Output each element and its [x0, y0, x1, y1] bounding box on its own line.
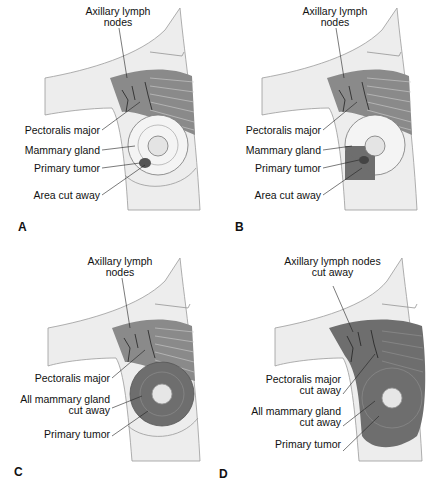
- label-pectoralis-major: Pectoralis major: [227, 125, 321, 136]
- panel-letter: D: [219, 467, 228, 481]
- panel-letter: A: [18, 220, 27, 234]
- label-pectoralis-major: Pectoralis major: [10, 373, 110, 384]
- label-pectoralis-major-cut-away: Pectoralis majorcut away: [237, 374, 341, 396]
- label-area-cut-away: Area cut away: [10, 190, 100, 201]
- label-primary-tumor: Primary tumor: [10, 429, 110, 440]
- panel-letter: C: [14, 467, 23, 478]
- label-pectoralis-major: Pectoralis major: [10, 125, 100, 136]
- label-primary-tumor: Primary tumor: [10, 163, 100, 174]
- panel-b: Axillary lymphnodes Pectoralis major Mam…: [217, 0, 434, 246]
- breast-anatomy-illustration: [217, 0, 434, 246]
- label-axillary-lymph-nodes: Axillary lymphnodes: [80, 256, 160, 278]
- label-primary-tumor: Primary tumor: [227, 163, 321, 174]
- label-all-mammary-gland-cut-away: All mammary glandcut away: [5, 394, 110, 416]
- label-mammary-gland: Mammary gland: [227, 145, 321, 156]
- label-axillary-lymph-nodes-cut-away: Axillary lymph nodescut away: [275, 256, 390, 278]
- label-all-mammary-gland-cut-away: All mammary glandcut away: [237, 406, 341, 428]
- label-mammary-gland: Mammary gland: [10, 145, 100, 156]
- breast-anatomy-illustration: [0, 246, 217, 492]
- breast-anatomy-illustration: [0, 0, 217, 246]
- breast-anatomy-illustration: [217, 246, 434, 492]
- label-primary-tumor: Primary tumor: [237, 439, 341, 450]
- panel-a: Axillary lymphnodes Pectoralis major Mam…: [0, 0, 217, 246]
- panel-letter: B: [235, 220, 244, 234]
- label-area-cut-away: Area cut away: [227, 190, 321, 201]
- panel-d: Axillary lymph nodescut away Pectoralis …: [217, 246, 434, 492]
- panel-c: Axillary lymphnodes Pectoralis major All…: [0, 246, 217, 492]
- label-axillary-lymph-nodes: Axillary lymphnodes: [78, 6, 158, 28]
- label-axillary-lymph-nodes: Axillary lymphnodes: [295, 6, 375, 28]
